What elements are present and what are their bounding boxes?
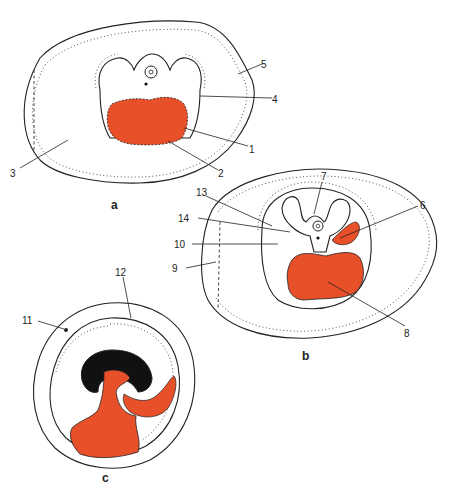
panel-a-blood-mass (107, 97, 187, 145)
callout-4: 4 (272, 94, 278, 105)
panel-a: 1 2 3 4 5 a (10, 21, 278, 212)
callout-11: 11 (22, 315, 33, 326)
panel-label-c: c (102, 471, 109, 485)
callout-1: 1 (249, 144, 255, 155)
callout-3: 3 (10, 168, 16, 179)
panel-c: 11 12 c (22, 267, 195, 485)
callout-10: 10 (174, 239, 186, 250)
callout-7: 7 (321, 171, 327, 182)
callout-5: 5 (261, 59, 267, 70)
panel-b: 7 6 8 13 14 10 9 b (172, 169, 437, 363)
panel-b-blood-mass (287, 253, 363, 301)
panel-label-a: a (111, 198, 118, 212)
callout-13: 13 (196, 187, 208, 198)
panel-a-neural-tube (145, 66, 157, 78)
callout-12: 12 (115, 267, 127, 278)
callout-14: 14 (178, 213, 190, 224)
callout-8: 8 (404, 328, 410, 339)
panel-a-notochord (144, 82, 147, 85)
panel-b-neural-tube (313, 221, 323, 231)
callout-9: 9 (172, 263, 178, 274)
callout-2: 2 (218, 168, 224, 179)
diagram-figure: 1 2 3 4 5 a 7 6 8 13 14 10 9 b (0, 0, 451, 496)
callout-6: 6 (420, 200, 426, 211)
panel-c-blood (70, 370, 139, 458)
panel-label-b: b (302, 349, 309, 363)
panel-b-dashed-edge (218, 222, 220, 310)
